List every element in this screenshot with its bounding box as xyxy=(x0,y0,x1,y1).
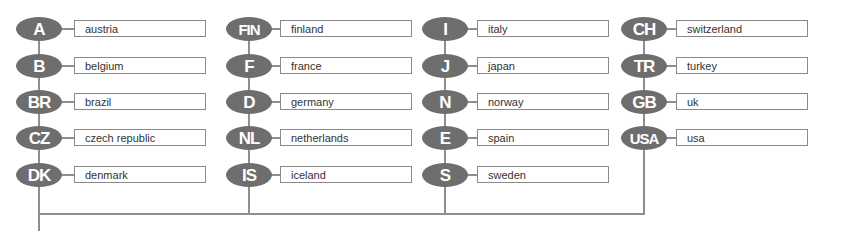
country-code-badge: TR xyxy=(621,54,667,78)
country-name-box: germany xyxy=(280,93,412,110)
country-name-box: japan xyxy=(477,57,609,74)
country-code-badge: GB xyxy=(621,90,667,114)
country-name-box: finland xyxy=(280,20,412,37)
bus-line xyxy=(39,213,645,215)
country-code-badge: F xyxy=(226,54,272,78)
country-name-box: denmark xyxy=(74,166,206,183)
country-code-badge: S xyxy=(422,163,468,187)
country-code-badge: IS xyxy=(226,163,272,187)
country-code-badge: N xyxy=(422,90,468,114)
country-code-badge: BR xyxy=(16,90,62,114)
country-name-box: switzerland xyxy=(676,20,808,37)
country-name-box: turkey xyxy=(676,57,808,74)
country-name-box: italy xyxy=(477,20,609,37)
country-code-badge: A xyxy=(16,17,62,41)
country-code-badge: I xyxy=(422,17,468,41)
country-name-box: uk xyxy=(676,93,808,110)
country-code-badge: USA xyxy=(621,126,667,150)
country-name-box: sweden xyxy=(477,166,609,183)
country-name-box: spain xyxy=(477,129,609,146)
country-name-box: france xyxy=(280,57,412,74)
country-name-box: usa xyxy=(676,129,808,146)
country-code-badge: FIN xyxy=(226,17,272,41)
country-code-badge: CZ xyxy=(16,126,62,150)
country-code-badge: J xyxy=(422,54,468,78)
country-code-badge: E xyxy=(422,126,468,150)
country-code-badge: CH xyxy=(621,17,667,41)
country-code-badge: D xyxy=(226,90,272,114)
country-name-box: czech republic xyxy=(74,129,206,146)
country-name-box: austria xyxy=(74,20,206,37)
country-name-box: netherlands xyxy=(280,129,412,146)
country-name-box: iceland xyxy=(280,166,412,183)
country-code-badge: DK xyxy=(16,163,62,187)
country-name-box: belgium xyxy=(74,57,206,74)
country-name-box: norway xyxy=(477,93,609,110)
country-name-box: brazil xyxy=(74,93,206,110)
country-code-badge: B xyxy=(16,54,62,78)
country-code-badge: NL xyxy=(226,126,272,150)
